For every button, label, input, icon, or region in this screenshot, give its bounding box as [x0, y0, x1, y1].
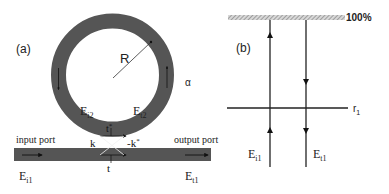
mirror-label: 100% [346, 12, 372, 23]
bus-waveguide [14, 148, 211, 161]
arrow-down-lower-icon [303, 128, 309, 134]
ring-resonator [59, 21, 167, 129]
coupling-k-label: k [90, 137, 96, 149]
reflector-label: r1 [353, 103, 360, 116]
field-i2-label: Ei2 [80, 104, 94, 120]
panel-a: (a) R α Ei2 Et2 [14, 21, 218, 185]
coupling-k-star-label: -k* [127, 137, 140, 149]
field-t1-label: Et1 [185, 169, 199, 185]
panel-b-field-t1-label: Et1 [313, 147, 327, 163]
radius-label: R [120, 51, 129, 66]
coupling-t-label: t [107, 162, 110, 174]
field-t2-label: Et2 [133, 104, 147, 120]
output-port-label: output port [174, 134, 218, 145]
panel-b: (b) 100% r1 Ei1 Et1 [227, 12, 372, 167]
mirror-100-percent [228, 15, 345, 20]
panel-b-label: (b) [236, 41, 251, 55]
ring-dot-left [58, 87, 60, 89]
radius-end-dot [150, 41, 152, 43]
radius-line [113, 42, 151, 78]
arrow-up-icon [267, 32, 273, 38]
arrow-down-icon [303, 79, 309, 85]
input-port-label: input port [16, 134, 55, 145]
diagram-canvas: (a) R α Ei2 Et2 [0, 0, 389, 194]
field-i1-label: Ei1 [19, 169, 33, 185]
loss-label: α [185, 77, 191, 88]
panel-a-label: (a) [16, 42, 31, 56]
arrow-up-lower-icon [267, 127, 273, 133]
panel-b-field-i1-label: Ei1 [248, 147, 262, 163]
ring-dot-right [166, 67, 168, 69]
